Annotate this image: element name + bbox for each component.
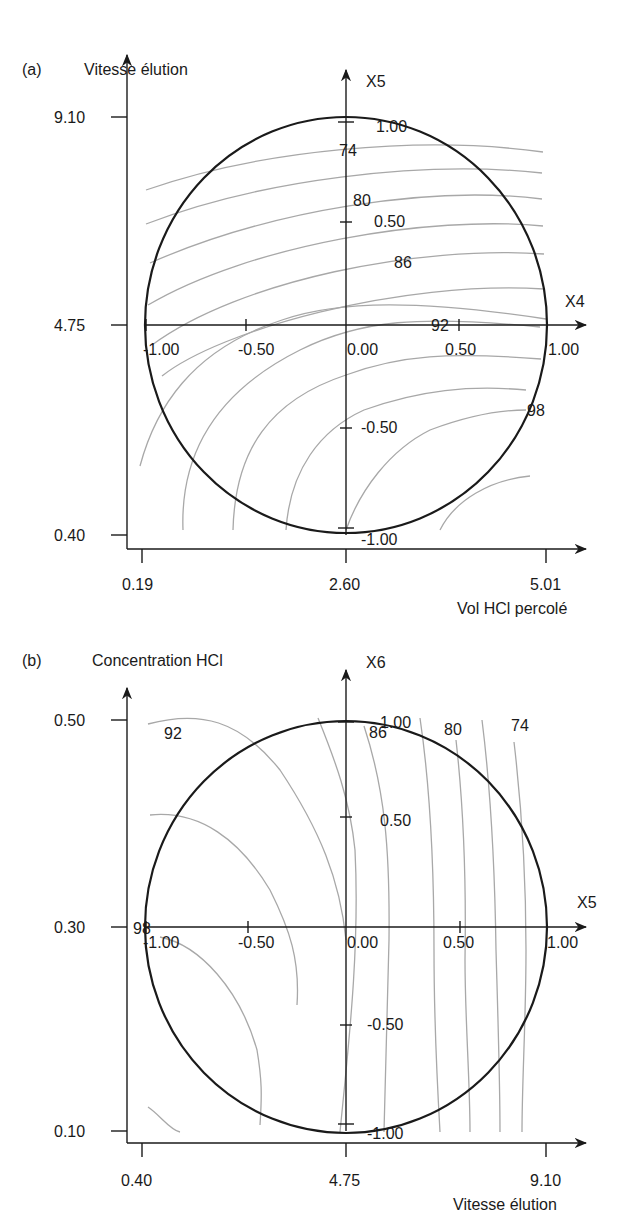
contour-label: 86 <box>394 254 412 271</box>
tick-label: 1.00 <box>547 934 578 951</box>
tick-label: -0.50 <box>367 1016 404 1033</box>
figure: (a) Vitesse élution X5 X4 9.10 4.75 0.40… <box>0 0 617 1222</box>
panel-a-contours <box>140 145 546 530</box>
panel-a-x-axis-title: Vol HCl percolé <box>457 600 567 617</box>
tick-label: 0.50 <box>445 341 476 358</box>
tick-label: 1.00 <box>548 341 579 358</box>
panel-a-x5-axis-name: X5 <box>366 73 386 90</box>
panel-a-outer-axes <box>111 55 586 563</box>
contour-label: 92 <box>164 725 182 742</box>
panel-a-x4-axis-name: X4 <box>565 293 585 310</box>
contour-label: 80 <box>353 192 371 209</box>
tick-label: -1.00 <box>361 531 398 548</box>
panel-a-label: (a) <box>22 61 42 78</box>
tick-label: 0.50 <box>374 213 405 230</box>
panel-a-coded-tick-labels: -1.00 -0.50 0.00 0.50 1.00 1.00 0.50 -0.… <box>143 118 579 548</box>
panel-b: (b) Concentration HCl X6 X5 0.50 0.30 0.… <box>22 652 597 1213</box>
tick-label: 0.10 <box>54 1123 85 1140</box>
tick-label: -1.00 <box>143 341 180 358</box>
contour-label: 80 <box>444 721 462 738</box>
panel-b-y-tick-labels: 0.50 0.30 0.10 <box>54 712 85 1140</box>
panel-a-y-axis-title: Vitesse élution <box>84 61 188 78</box>
tick-label: -0.50 <box>361 419 398 436</box>
tick-label: 0.40 <box>121 1172 152 1189</box>
panel-b-y-axis-title: Concentration HCl <box>92 652 223 669</box>
tick-label: 1.00 <box>376 118 407 135</box>
contour-label: 92 <box>431 317 449 334</box>
contour-label: 74 <box>339 142 357 159</box>
panel-b-coded-axes <box>145 670 586 1131</box>
tick-label: 9.10 <box>530 1172 561 1189</box>
tick-label: 0.50 <box>54 712 85 729</box>
panel-b-x-tick-labels: 0.40 4.75 9.10 <box>121 1172 561 1189</box>
tick-label: 0.30 <box>54 919 85 936</box>
tick-label: 0.50 <box>380 812 411 829</box>
contour-label: 98 <box>133 920 151 937</box>
tick-label: -0.50 <box>238 341 275 358</box>
panel-a-y-tick-labels: 9.10 4.75 0.40 <box>54 109 85 544</box>
tick-label: 0.00 <box>347 934 378 951</box>
contour-label: 74 <box>511 717 529 734</box>
panel-b-outer-axes <box>111 688 586 1157</box>
panel-b-x5-axis-name: X5 <box>577 894 597 911</box>
panel-a-contour-labels: 74 80 86 92 98 <box>339 142 545 419</box>
tick-label: 0.40 <box>54 527 85 544</box>
tick-label: 0.50 <box>443 934 474 951</box>
tick-label: -1.00 <box>367 1125 404 1142</box>
tick-label: -0.50 <box>238 934 275 951</box>
tick-label: 0.19 <box>122 576 153 593</box>
panel-b-x6-axis-name: X6 <box>366 654 386 671</box>
panel-b-x-axis-title: Vitesse élution <box>453 1196 557 1213</box>
panel-a-x-tick-labels: 0.19 2.60 5.01 <box>122 576 561 593</box>
tick-label: 4.75 <box>54 317 85 334</box>
contour-label: 98 <box>527 402 545 419</box>
panel-b-label: (b) <box>22 652 42 669</box>
tick-label: 9.10 <box>54 109 85 126</box>
panel-a: (a) Vitesse élution X5 X4 9.10 4.75 0.40… <box>22 55 586 617</box>
contour-label: 86 <box>369 724 387 741</box>
tick-label: 0.00 <box>347 341 378 358</box>
tick-label: 4.75 <box>329 1172 360 1189</box>
tick-label: 2.60 <box>329 576 360 593</box>
tick-label: 5.01 <box>530 576 561 593</box>
